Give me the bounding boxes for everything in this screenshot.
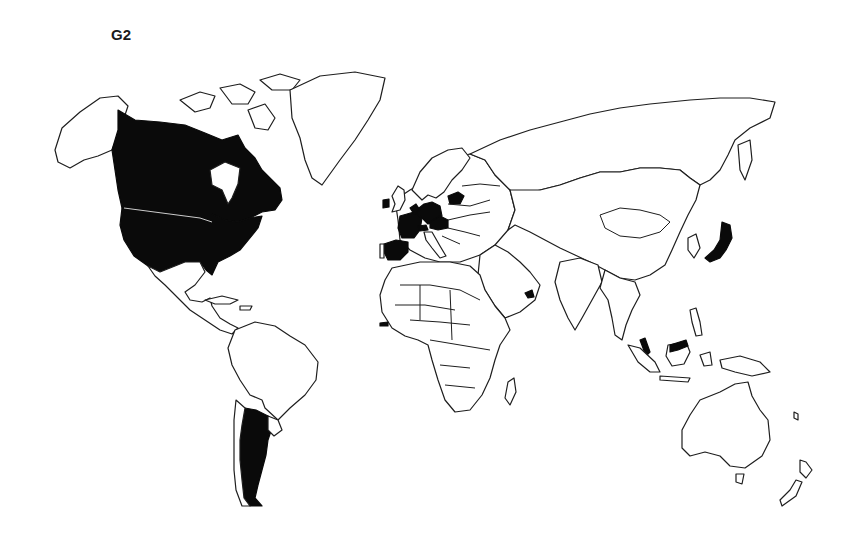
country-switzerland (418, 225, 428, 231)
region-arctic-islands (180, 74, 300, 130)
country-portugal (380, 244, 384, 258)
region-australia (682, 382, 770, 468)
region-kamchatka (738, 140, 752, 180)
country-spain (384, 240, 408, 260)
region-tasmania (736, 474, 744, 484)
region-new-zealand (780, 460, 812, 506)
region-korea (688, 234, 700, 258)
region-india (555, 258, 602, 330)
region-madagascar (505, 378, 516, 405)
world-map (0, 0, 862, 547)
country-japan (705, 222, 732, 262)
region-new-guinea (720, 356, 770, 376)
country-ireland (383, 199, 389, 208)
region-philippines (690, 308, 702, 336)
region-pacific-islands (794, 412, 798, 420)
country-argentina (240, 408, 272, 506)
region-greenland (290, 72, 385, 185)
country-gambia (380, 322, 388, 326)
region-southeast-asia (600, 270, 640, 340)
